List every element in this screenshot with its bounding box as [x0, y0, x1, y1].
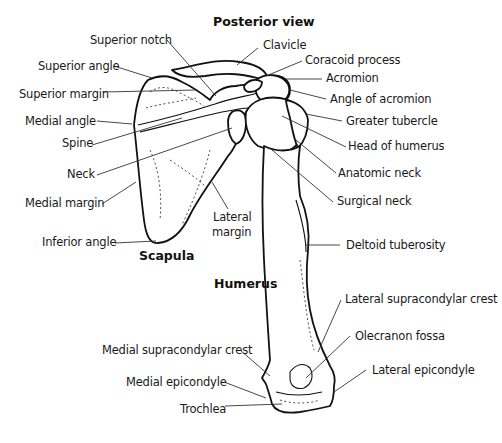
label-acromion: Acromion [326, 73, 379, 85]
leader-greater-tubercle [306, 114, 342, 121]
leader-angle-acromion [290, 90, 326, 99]
leader-anatomic-neck [296, 140, 336, 173]
label-superior-margin: Superior margin [19, 89, 109, 101]
leader-trochlea [225, 404, 282, 406]
leader-medial-angle [97, 121, 132, 124]
label-head-of-humerus: Head of humerus [348, 141, 444, 153]
label-lateral-supracondylar-crest: Lateral supracondylar crest [345, 294, 497, 306]
label-medial-supracondylar-crest: Medial supracondylar crest [102, 345, 252, 357]
label-clavicle: Clavicle [263, 40, 306, 52]
leader-medial-margin [102, 182, 136, 204]
label-superior-notch: Superior notch [90, 35, 172, 47]
label-olecranon-fossa: Olecranon fossa [355, 331, 445, 343]
label-angle-of-acromion: Angle of acromion [330, 94, 431, 106]
label-surgical-neck: Surgical neck [337, 196, 412, 208]
leader-olecranon [306, 336, 350, 378]
label-medial-epicondyle: Medial epicondyle [126, 377, 227, 389]
leader-neck [97, 128, 232, 175]
label-anatomic-neck: Anatomic neck [338, 168, 421, 180]
label-coracoid-process: Coracoid process [305, 55, 400, 67]
leader-clavicle [237, 48, 258, 65]
label-lateral-margin-line1: Lateral [213, 212, 252, 224]
leader-lateral-margin [212, 182, 228, 209]
anatomy-diagram: Posterior view Scapula Humerus Superior … [0, 0, 502, 443]
label-inferior-angle: Inferior angle [42, 237, 116, 249]
leader-superior-notch [167, 40, 216, 96]
label-medial-margin: Medial margin [25, 198, 104, 210]
label-trochlea: Trochlea [180, 404, 226, 416]
leader-surgical-neck [272, 150, 333, 202]
leader-coracoid [266, 61, 302, 76]
label-deltoid-tuberosity: Deltoid tuberosity [346, 240, 445, 252]
leader-superior-angle [114, 66, 152, 78]
label-lateral-margin-line2: margin [212, 227, 251, 239]
label-superior-angle: Superior angle [38, 61, 119, 73]
humerus-heading: Humerus [214, 278, 277, 291]
leader-lateral-epicondyle [334, 370, 366, 392]
label-neck: Neck [67, 169, 95, 181]
label-lateral-epicondyle: Lateral epicondyle [372, 365, 475, 377]
label-spine: Spine [62, 138, 93, 150]
label-greater-tubercle: Greater tubercle [346, 116, 438, 128]
scapula-heading: Scapula [139, 250, 194, 263]
leader-medial-epicondyle [224, 382, 266, 398]
leader-lat-supracondylar [318, 300, 341, 352]
figure-title: Posterior view [213, 16, 315, 29]
leader-superior-margin [103, 90, 196, 92]
label-medial-angle: Medial angle [25, 116, 96, 128]
leader-head-humerus [282, 116, 346, 147]
leader-inferior-angle [115, 241, 156, 243]
